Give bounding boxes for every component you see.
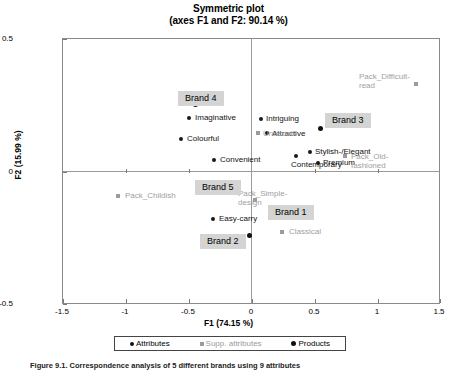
x-tick-label: 0.5 [294, 307, 334, 316]
data-point-contemporary [294, 154, 298, 158]
data-point-colourful [179, 137, 183, 141]
y-axis-title: F2 (15.99 %) [13, 105, 23, 205]
x-tick [315, 299, 316, 303]
x-tick [440, 299, 441, 303]
label-brand-4: Brand 4 [178, 91, 224, 106]
y-tick-label: 0 [0, 167, 13, 176]
legend-dot-icon [130, 342, 134, 346]
legend-dot-large-icon [291, 341, 296, 346]
data-point-intriguing [259, 117, 263, 121]
label-imaginative: Imaginative [195, 113, 236, 122]
label-pack-childish: Pack_Childish [125, 191, 176, 200]
x-tick-label: -1 [105, 307, 145, 316]
x-tick [189, 299, 190, 303]
data-point-brand-3 [318, 126, 323, 131]
x-tick [63, 299, 64, 303]
label-pack-difficult-read: Pack_Difficult-read [359, 72, 411, 90]
label-brand-1: Brand 1 [268, 205, 314, 220]
y-tick [63, 172, 67, 173]
x-tick [252, 299, 253, 303]
x-tick [378, 299, 379, 303]
legend-label: Products [298, 339, 330, 348]
legend-square-icon [200, 342, 204, 346]
legend-label: Attributes [136, 339, 170, 348]
label-convenient: Convenient [220, 155, 260, 164]
x-tick-label: -0.5 [168, 307, 208, 316]
x-axis-tick [189, 169, 190, 173]
label-brand-2: Brand 2 [200, 234, 246, 249]
chart-page: Symmetric plot (axes F1 and F2: 90.14 %) [0, 0, 457, 370]
chart-title: Symmetric plot (axes F1 and F2: 90.14 %) [0, 3, 457, 27]
chart-title-main: Symmetric plot [0, 3, 457, 15]
label-brand-5: Brand 5 [195, 180, 241, 195]
label-unusual: Unusual [263, 129, 292, 138]
data-point-stylish-elegant [308, 150, 312, 154]
label-intriguing: Intriguing [266, 114, 299, 123]
x-axis-tick [315, 169, 316, 173]
x-tick-label: 1 [357, 307, 397, 316]
data-point-classical [280, 230, 284, 234]
x-tick [126, 299, 127, 303]
data-point-imaginative [187, 116, 191, 120]
label-pack-old-fashioned: Pack_Old-fashioned [351, 152, 397, 170]
data-point-convenient [212, 158, 216, 162]
x-axis-line [63, 171, 439, 172]
data-point-pack-childish [116, 194, 120, 198]
label-easy-carry: Easy-carry [219, 214, 257, 223]
x-tick-label: 0 [231, 307, 271, 316]
label-classical: Classical [289, 227, 321, 236]
x-tick-label: 1.5 [419, 307, 457, 316]
data-point-pack-difficult-read [414, 82, 418, 86]
data-point-unusual [256, 131, 260, 135]
legend-item-supp-attributes: Supp. attributes [200, 339, 262, 348]
x-axis-title: F1 (74.15 %) [0, 318, 457, 328]
y-tick-label: 0.5 [0, 34, 13, 43]
legend-item-attributes: Attributes [130, 339, 170, 348]
y-tick-label: -0.5 [0, 299, 13, 308]
figure-caption: Figure 9.1. Correspondence analysis of 5… [30, 361, 450, 370]
legend-label: Supp. attributes [206, 339, 262, 348]
label-contemporary: Contemporary [291, 160, 342, 169]
x-tick-label: -1.5 [42, 307, 82, 316]
label-brand-3: Brand 3 [325, 113, 371, 128]
x-axis-tick [126, 169, 127, 173]
plot-area: Imaginative Colourful Intriguing Attract… [62, 38, 440, 304]
legend-item-products: Products [291, 339, 330, 348]
chart-legend: Attributes Supp. attributes Products [114, 336, 346, 351]
label-colourful: Colourful [187, 134, 219, 143]
data-point-easy-carry [211, 217, 215, 221]
y-tick [63, 39, 67, 40]
chart-title-sub: (axes F1 and F2: 90.14 %) [0, 15, 457, 27]
y-tick [63, 304, 67, 305]
